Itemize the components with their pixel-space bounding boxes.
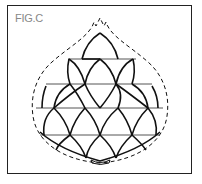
teardrop-lattice-drawing xyxy=(0,0,202,184)
arched-lattice xyxy=(40,33,160,161)
